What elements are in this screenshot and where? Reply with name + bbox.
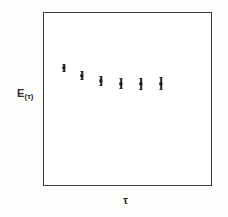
figure-plot-e-tau: E(τ) τ: [0, 0, 228, 217]
plot-frame-box: [43, 12, 212, 186]
y-axis-label-main: E: [17, 87, 25, 99]
y-axis-label-subscript: (τ): [25, 92, 34, 101]
y-axis-label: E(τ): [17, 88, 33, 101]
x-axis-label: τ: [123, 195, 128, 206]
